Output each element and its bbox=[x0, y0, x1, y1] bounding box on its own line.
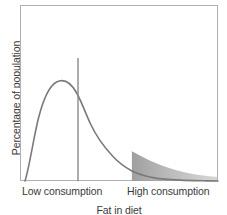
x-label-high-consumption: High consumption bbox=[127, 184, 209, 199]
plot-area bbox=[20, 5, 218, 181]
x-label-low-consumption: Low consumption bbox=[22, 184, 102, 199]
population-distribution-curve bbox=[25, 81, 218, 181]
chart-figure: Percentage of population Low consumption… bbox=[0, 0, 227, 215]
x-axis-category-labels: Low consumption High consumption bbox=[20, 184, 220, 200]
x-axis-label: Fat in diet bbox=[20, 203, 218, 215]
distribution-curve-svg bbox=[21, 6, 219, 182]
